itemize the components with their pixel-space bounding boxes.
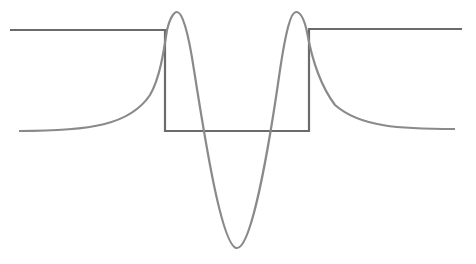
potential-well-diagram (0, 0, 476, 264)
potential-well (10, 29, 462, 131)
